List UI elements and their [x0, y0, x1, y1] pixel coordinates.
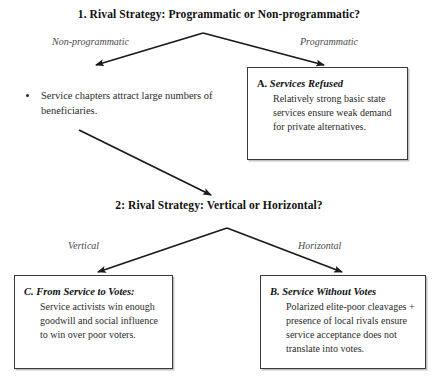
outcome-box-b-lead: B. — [270, 286, 280, 297]
arrow-q2-to-vertical — [98, 228, 227, 272]
bullet-text: Service chapters attract large numbers o… — [41, 88, 226, 118]
outcome-box-c-inner: C. From Service to Votes: Service activi… — [15, 276, 172, 342]
outcome-box-c-heading: C. From Service to Votes: — [24, 285, 164, 299]
outcome-box-c: C. From Service to Votes: Service activi… — [14, 275, 173, 369]
outcome-box-a-body: Relatively strong basic state services e… — [257, 91, 399, 134]
outcome-box-a-lead: A. — [257, 78, 267, 89]
outcome-box-a: A. Services Refused Relatively strong ba… — [247, 67, 408, 160]
question-2-title: 2: Rival Strategy: Vertical or Horizonta… — [0, 199, 438, 211]
outcome-box-c-body: Service activists win enough goodwill an… — [24, 299, 164, 342]
outcome-box-a-inner: A. Services Refused Relatively strong ba… — [248, 68, 407, 134]
outcome-box-b-inner: B. Service Without Votes Polarized elite… — [261, 276, 425, 356]
outcome-box-b: B. Service Without Votes Polarized elite… — [260, 275, 426, 369]
branch-label-programmatic: Programmatic — [300, 36, 358, 47]
branch-label-horizontal: Horizontal — [298, 240, 341, 251]
branch-label-non-programmatic: Non-programmatic — [52, 36, 129, 47]
outcome-box-b-heading: B. Service Without Votes — [270, 285, 417, 299]
outcome-box-c-name: From Service to Votes: — [36, 286, 134, 297]
outcome-box-c-lead: C. — [24, 286, 34, 297]
arrow-bullet-to-q2 — [79, 130, 211, 195]
outcome-box-a-name: Services Refused — [270, 78, 343, 89]
outcome-box-a-heading: A. Services Refused — [257, 77, 399, 91]
question-1-title: 1. Rival Strategy: Programmatic or Non-p… — [0, 8, 438, 20]
bullet-dot-icon — [26, 94, 29, 97]
outcome-box-b-name: Service Without Votes — [282, 286, 376, 297]
branch-label-vertical: Vertical — [68, 240, 99, 251]
decision-tree-diagram: 1. Rival Strategy: Programmatic or Non-p… — [0, 0, 438, 389]
non-programmatic-bullet-item: Service chapters attract large numbers o… — [26, 88, 226, 118]
outcome-box-b-body: Polarized elite-poor cleavages + presenc… — [270, 299, 417, 356]
